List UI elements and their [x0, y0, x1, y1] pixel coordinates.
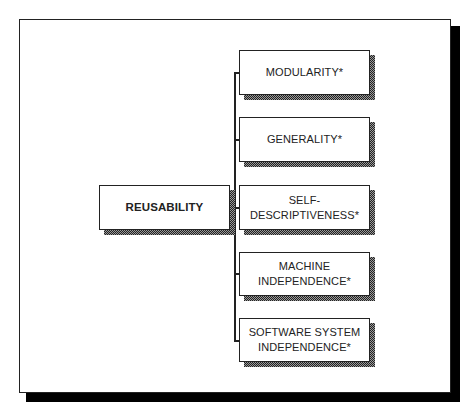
child-label: MODULARITY* [266, 65, 344, 80]
child-node-modularity: MODULARITY* [239, 50, 370, 95]
child-label-line2: INDEPENDENCE* [258, 274, 351, 289]
root-label: REUSABILITY [126, 200, 204, 215]
child-node-software-system-independence: SOFTWARE SYSTEM INDEPENDENCE* [239, 318, 370, 362]
child-label-line2: INDEPENDENCE* [258, 340, 351, 355]
child-label-line1: MACHINE [279, 259, 330, 274]
child-label: GENERALITY* [267, 132, 342, 147]
child-label-line1: SELF- [289, 193, 321, 208]
child-label-line1: SOFTWARE SYSTEM [249, 325, 361, 340]
child-node-self-descriptiveness: SELF- DESCRIPTIVENESS* [239, 185, 370, 230]
child-node-machine-independence: MACHINE INDEPENDENCE* [239, 252, 370, 296]
child-label-line2: DESCRIPTIVENESS* [250, 208, 359, 223]
child-node-generality: GENERALITY* [239, 117, 370, 162]
root-node-reusability: REUSABILITY [99, 185, 230, 230]
